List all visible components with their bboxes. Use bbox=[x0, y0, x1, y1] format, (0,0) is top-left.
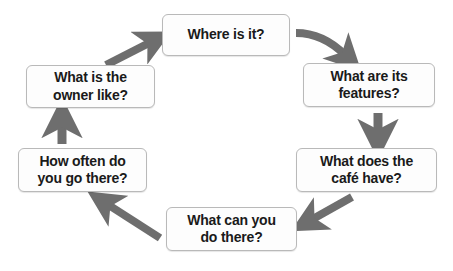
node-owner-line-1: What is the bbox=[53, 69, 128, 87]
node-often-line-2: you go there? bbox=[38, 170, 128, 188]
node-features-line-1: What are its bbox=[331, 68, 408, 86]
arrow-do-to-often bbox=[107, 204, 160, 238]
node-owner-line-2: owner like? bbox=[53, 87, 128, 105]
diagram-canvas: Where is it? What are its features? What… bbox=[0, 0, 453, 271]
node-often-line-1: How often do bbox=[38, 153, 128, 171]
arrow-owner-to-where bbox=[106, 42, 151, 65]
node-do-line-1: What can you bbox=[187, 212, 276, 230]
node-features[interactable]: What are its features? bbox=[303, 63, 435, 107]
node-owner[interactable]: What is the owner like? bbox=[26, 65, 155, 108]
node-cafe[interactable]: What does the café have? bbox=[296, 148, 437, 192]
node-cafe-line-2: café have? bbox=[320, 170, 413, 188]
node-do[interactable]: What can you do there? bbox=[166, 207, 297, 251]
node-where-line-1: Where is it? bbox=[188, 26, 265, 44]
node-do-line-2: do there? bbox=[187, 229, 276, 247]
node-cafe-line-1: What does the bbox=[320, 153, 413, 171]
node-often[interactable]: How often do you go there? bbox=[18, 148, 147, 192]
arrow-cafe-to-do bbox=[311, 197, 352, 220]
node-where[interactable]: Where is it? bbox=[162, 14, 290, 56]
node-features-line-2: features? bbox=[331, 85, 408, 103]
arrow-where-to-features bbox=[296, 33, 345, 55]
